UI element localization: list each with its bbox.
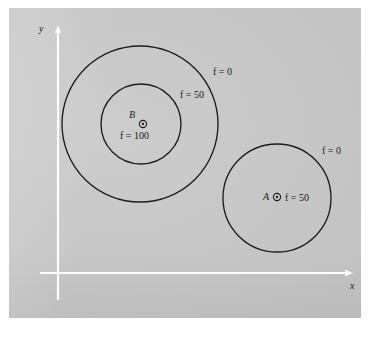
point-marker-a-icon (273, 193, 280, 200)
x-axis-label: x (350, 281, 354, 291)
point-label-b: B (129, 110, 135, 120)
contour-b-0 (62, 46, 218, 202)
contour-label-a-outer: f = 0 (322, 146, 341, 156)
contours-group (62, 46, 331, 252)
point-marker-b-icon (139, 120, 146, 127)
point-markers-group (139, 120, 280, 200)
y-axis-arrow-icon (55, 25, 62, 33)
point-value-b: f = 100 (120, 131, 149, 141)
contour-b-1 (101, 84, 181, 164)
x-axis-arrow-icon (345, 270, 353, 277)
contour-label-b-inner: f = 50 (180, 90, 204, 100)
contour-label-b-outer: f = 0 (213, 67, 232, 77)
point-value-a: f = 50 (285, 193, 309, 203)
y-axis-label: y (39, 24, 43, 34)
figure-root: y x f = 0 f = 50 f = 0 B f = 100 A f = 5… (0, 0, 375, 337)
figure-graphics (0, 0, 375, 337)
point-label-a: A (263, 192, 269, 202)
